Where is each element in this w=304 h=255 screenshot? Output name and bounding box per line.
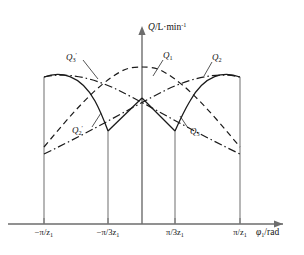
leader-q3-prime bbox=[83, 60, 98, 79]
tick-label-neg-pi-3z1-sub: 1 bbox=[116, 231, 119, 238]
y-axis-label-unit: /L·min bbox=[155, 22, 182, 32]
tick-label-pi-z1-main: π/z bbox=[233, 227, 244, 237]
curve-q2-solid-fall bbox=[142, 98, 175, 131]
curve-label-q2: Q2 bbox=[212, 52, 222, 63]
y-axis-arrow-icon bbox=[138, 26, 145, 35]
curve-label-q3-prime-mark: ′ bbox=[76, 51, 78, 58]
curve-label-q1: Q1 bbox=[163, 50, 173, 61]
curve-label-q2-sub: 2 bbox=[219, 56, 222, 63]
curve-label-q2-prime: Q2′ bbox=[72, 124, 84, 136]
tick-label-pi-3z1-main: π/3z bbox=[166, 227, 181, 237]
x-axis-label: φ1/rad bbox=[256, 227, 279, 238]
chart-canvas: Q3′ Q1 Q2 Q2′ Q3 Q/L·min-1 φ bbox=[0, 0, 304, 255]
tick-label-pi-3z1: π/3z1 bbox=[166, 227, 184, 238]
y-axis-label: Q/L·min-1 bbox=[148, 21, 186, 33]
axes-group bbox=[8, 26, 283, 228]
tick-label-neg-pi-3z1: −π/3z1 bbox=[97, 227, 120, 238]
leader-q2 bbox=[204, 62, 212, 76]
x-axis-label-unit: /rad bbox=[264, 227, 279, 237]
curve-q2-prime-solid bbox=[44, 74, 108, 131]
curve-label-q3-sub: 3 bbox=[197, 130, 200, 137]
curve-label-q1-sub: 1 bbox=[170, 54, 173, 61]
tick-label-neg-pi-z1-sub: 1 bbox=[50, 231, 53, 238]
curve-label-q3: Q3 bbox=[190, 126, 200, 137]
curve-label-q2-prime-mark: ′ bbox=[82, 124, 84, 131]
tick-label-neg-pi-3z1-main: −π/3z bbox=[97, 227, 117, 237]
x-axis-tick-labels: −π/z1 −π/3z1 π/3z1 π/z1 bbox=[35, 227, 247, 238]
tick-label-neg-pi-z1: −π/z1 bbox=[35, 227, 53, 238]
tick-label-pi-z1-sub: 1 bbox=[244, 231, 247, 238]
curve-label-q3-prime: Q3′ bbox=[66, 51, 78, 63]
curve-labels-group: Q3′ Q1 Q2 Q2′ Q3 bbox=[66, 50, 222, 137]
leader-q3 bbox=[180, 116, 188, 128]
tick-label-pi-3z1-sub: 1 bbox=[181, 231, 184, 238]
y-axis-label-exponent: -1 bbox=[181, 21, 186, 28]
tick-label-pi-z1: π/z1 bbox=[233, 227, 247, 238]
flow-rate-chart-figure: Q3′ Q1 Q2 Q2′ Q3 Q/L·min-1 φ bbox=[0, 0, 304, 255]
curve-q2-prime-rise bbox=[108, 98, 142, 131]
tick-label-neg-pi-z1-main: −π/z bbox=[35, 227, 50, 237]
